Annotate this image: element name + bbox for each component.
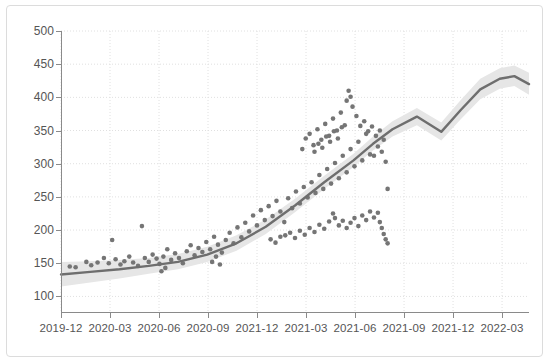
y-tick-label: 500 [34,24,54,38]
x-tick-mark [306,313,307,318]
x-tick-label: 2021-06 [334,322,377,334]
y-tick-mark [56,97,61,98]
y-tick-mark [56,197,61,198]
x-tick-mark [404,313,405,318]
y-tick-mark [56,131,61,132]
x-tick-mark [355,313,356,318]
x-tick-label: 2021-12 [432,322,475,334]
plot-frame [61,31,529,313]
x-tick-label: 2020-03 [89,322,132,334]
y-tick-label: 400 [34,90,54,104]
x-tick-label: 2020-06 [138,322,181,334]
y-tick-label: 200 [34,223,54,237]
x-tick-mark [502,313,503,318]
y-tick-mark [56,31,61,32]
x-tick-label: 2022-03 [481,322,524,334]
y-tick-label: 300 [34,157,54,171]
y-tick-mark [56,263,61,264]
y-tick-label: 350 [34,124,54,138]
x-tick-mark [208,313,209,318]
x-tick-mark [453,313,454,318]
y-tick-mark [56,230,61,231]
y-tick-mark [56,164,61,165]
x-tick-mark [257,313,258,318]
y-axis: 500450400350300250200150100 [0,0,54,364]
x-tick-mark [110,313,111,318]
plot-area [61,31,529,313]
y-tick-label: 100 [34,289,54,303]
chart-figure: 500450400350300250200150100 2019-122020-… [0,0,550,364]
x-tick-label: 2019-12 [40,322,83,334]
y-tick-mark [56,296,61,297]
y-tick-label: 450 [34,57,54,71]
x-tick-label: 2021-09 [383,322,426,334]
x-tick-mark [61,313,62,318]
x-tick-mark [159,313,160,318]
x-tick-label: 2020-09 [187,322,230,334]
y-tick-label: 250 [34,190,54,204]
y-tick-mark [56,64,61,65]
x-tick-label: 2021-12 [236,322,279,334]
x-tick-label: 2021-03 [285,322,328,334]
y-tick-label: 150 [34,256,54,270]
